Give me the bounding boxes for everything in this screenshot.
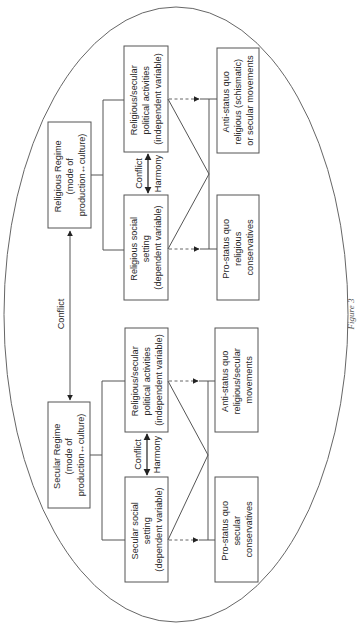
secular-social-line-1: Secular social [130, 502, 140, 559]
secular-harmony-label: Harmony [152, 435, 162, 473]
religious-regime-bracket [91, 100, 124, 250]
regime-conflict-link: Conflict [56, 231, 70, 400]
religious-pro-status-quo-box: Pro-status quo religious conservatives [217, 195, 259, 300]
secular-group: Secular Regime (mode of production↔cultu… [48, 328, 258, 582]
religious-conflict-harmony: Conflict Harmony [134, 154, 163, 193]
regime-conflict-label: Conflict [56, 298, 66, 329]
religious-pro-line-3: conservatives [245, 219, 255, 276]
religious-anti-line-1: Anti-status quo [221, 71, 231, 132]
secular-pro-status-quo-box: Pro-status quo secular conservatives [215, 477, 258, 582]
secular-anti-line-2: religious/secular [232, 348, 242, 414]
secular-social-line-3: (dependent variable) [154, 487, 164, 571]
religious-political-line-3: (independent variable) [153, 53, 163, 144]
secular-regime-bracket [90, 381, 125, 540]
figure-diagram: Conflict Religious Regime (mode of produ… [0, 0, 363, 628]
secular-pro-line-3: conservatives [244, 501, 254, 558]
religious-regime-line-2: (mode of [65, 158, 75, 195]
secular-anti-line-1: Anti-status quo [220, 351, 230, 412]
religious-regime-box: Religious Regime (mode of production↔cul… [48, 122, 91, 228]
secular-conflict-label: Conflict [133, 439, 143, 470]
religious-pro-line-2: religious [233, 231, 243, 266]
secular-anti-line-3: movements [244, 356, 254, 404]
secular-political-line-1: Religious/secular [130, 346, 140, 416]
religious-political-box: Religious/secular political activities (… [124, 46, 168, 152]
secular-pro-line-2: secular [232, 516, 242, 546]
religious-regime-line-3: production↔culture) [77, 134, 87, 217]
religious-harmony-label: Harmony [153, 154, 163, 192]
secular-social-box: Secular social setting (dependent variab… [125, 477, 168, 582]
secular-outcome-connectors [168, 381, 215, 540]
figure-caption: Figure 3 [346, 298, 356, 330]
religious-group: Religious Regime (mode of production↔cul… [48, 46, 259, 300]
secular-regime-line-3: production↔culture) [76, 414, 86, 497]
secular-regime-line-2: (mode of [64, 438, 74, 475]
religious-anti-line-3: or secular movements [245, 55, 255, 146]
religious-political-line-2: political activities [141, 66, 151, 135]
svg-text:Religious/secular poli: Religious/secular political activities (… [130, 334, 164, 425]
secular-conflict-harmony: Conflict Harmony [133, 434, 162, 475]
religious-social-box: Religious social setting (dependent vari… [124, 195, 168, 300]
secular-regime-box: Secular Regime (mode of production↔cultu… [48, 402, 90, 508]
secular-political-line-2: political activities [142, 347, 152, 416]
secular-pro-line-1: Pro-status quo [220, 501, 230, 561]
secular-regime-line-1: Secular Regime [52, 424, 62, 489]
secular-political-line-3: (independent variable) [154, 334, 164, 425]
religious-pro-line-1: Pro-status quo [221, 219, 231, 279]
secular-anti-status-quo-box: Anti-status quo religious/secular moveme… [215, 328, 258, 432]
religious-social-line-3: (dependent variable) [153, 205, 163, 289]
religious-anti-status-quo-box: Anti-status quo religious (schismatic) o… [217, 48, 259, 153]
religious-social-line-2: setting [141, 235, 151, 262]
religious-regime-line-1: Religious Regime [53, 140, 63, 212]
secular-political-box: Religious/secular political activities (… [125, 328, 168, 432]
religious-anti-line-2: religious (schismatic) [233, 59, 243, 145]
religious-conflict-label: Conflict [134, 158, 144, 189]
svg-text:Religious/secular poli: Religious/secular political activities (… [129, 53, 163, 144]
religious-political-line-1: Religious/secular [129, 65, 139, 135]
religious-outcome-connectors [168, 99, 217, 249]
religious-social-line-1: Religious social [129, 217, 139, 281]
secular-social-line-2: setting [142, 517, 152, 544]
